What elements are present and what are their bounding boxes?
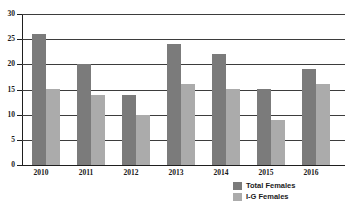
bar-total-females-2016 (302, 69, 316, 165)
x-axis-tick-label-2012: 2012 (112, 169, 150, 177)
legend-label-total-females: Total Females (246, 182, 295, 190)
legend-label-ig-females: I-G Females (246, 193, 289, 201)
bar-total-females-2010 (32, 34, 46, 165)
y-axis-tick-label: 25 (0, 35, 15, 43)
y-axis-tick-label: 15 (0, 86, 15, 94)
bar-ig-females-2015 (271, 120, 285, 165)
bar-total-females-2012 (122, 95, 136, 165)
bar-ig-females-2010 (46, 89, 60, 165)
y-axis-tick-label: 10 (0, 111, 15, 119)
bar-ig-females-2016 (316, 84, 330, 165)
y-axis-tick-label: 5 (0, 136, 15, 144)
bar-ig-females-2014 (226, 89, 240, 165)
bar-total-females-2014 (212, 54, 226, 165)
chart-legend: Total Females I-G Females (233, 181, 295, 203)
y-axis-tick-label: 30 (0, 10, 15, 18)
legend-swatch-icon-ig-females (233, 193, 242, 201)
x-axis-tick-label-2016: 2016 (292, 169, 330, 177)
x-axis-tick-label-2010: 2010 (22, 169, 60, 177)
legend-swatch-icon-total-females (233, 182, 242, 190)
bar-ig-females-2012 (136, 115, 150, 165)
bars-layer (22, 14, 345, 165)
bar-ig-females-2013 (181, 84, 195, 165)
x-axis-tick-label-2015: 2015 (247, 169, 285, 177)
legend-item-ig-females: I-G Females (233, 192, 295, 202)
bar-total-females-2011 (77, 64, 91, 165)
bar-ig-females-2011 (91, 95, 105, 165)
bar-total-females-2015 (257, 89, 271, 165)
x-axis-line (22, 165, 345, 166)
bar-chart: 30 25 20 15 10 5 0 (0, 0, 353, 214)
x-axis-tick-label-2013: 2013 (157, 169, 195, 177)
x-axis-tick-label-2014: 2014 (202, 169, 240, 177)
x-axis-tick-label-2011: 2011 (67, 169, 105, 177)
legend-item-total-females: Total Females (233, 181, 295, 191)
y-axis-tick-label: 0 (0, 161, 15, 169)
y-axis-tick-label: 20 (0, 60, 15, 68)
bar-total-females-2013 (167, 44, 181, 165)
